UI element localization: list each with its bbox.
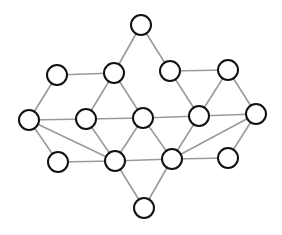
graph-node (218, 148, 238, 168)
graph-node (133, 108, 153, 128)
graph-node (131, 15, 151, 35)
graph-nodes (19, 15, 266, 218)
graph-node (19, 110, 39, 130)
graph-node (76, 109, 96, 129)
graph-node (218, 60, 238, 80)
graph-node (162, 149, 182, 169)
graph-node (189, 106, 209, 126)
graph-node (105, 151, 125, 171)
graph-edge (29, 120, 115, 161)
graph-node (246, 104, 266, 124)
graph-node (104, 63, 124, 83)
graph-node (48, 152, 68, 172)
graph-node (134, 198, 154, 218)
graph-edge (172, 114, 256, 159)
graph-diagram (0, 0, 282, 235)
graph-node (47, 65, 67, 85)
graph-node (160, 61, 180, 81)
